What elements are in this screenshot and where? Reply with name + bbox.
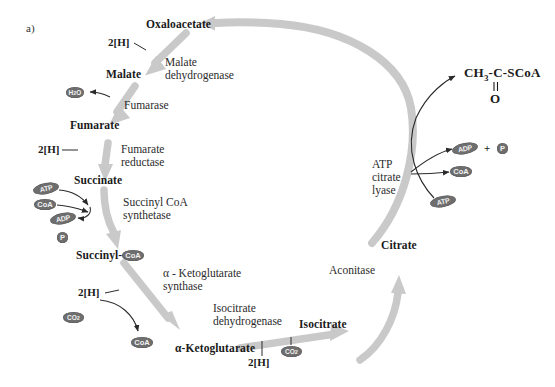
cofactor-2h-succinyl-akg: 2[H] xyxy=(78,286,99,298)
arrow-coa-release-akg xyxy=(100,300,138,331)
enzyme-fumarase: Fumarase xyxy=(124,99,169,112)
enzyme-succinyl-coa-synthetase-line2: synthetase xyxy=(123,209,188,222)
enzyme-malate-dehydrogenase-line1: Malate xyxy=(165,56,234,69)
phosphate-badge-scs: P xyxy=(57,232,68,243)
coa-badge-succinyl: CoA xyxy=(122,250,144,261)
enzyme-atp-citrate-lyase-line2: citrate xyxy=(372,171,401,184)
carbonyl-oxygen: O xyxy=(490,92,500,107)
enzyme-succinyl-coa-synthetase-line1: Succinyl CoA xyxy=(123,196,188,209)
arrow-succinate-to-succinyl-coa xyxy=(104,190,121,249)
enzyme-atp-citrate-lyase-line3: lyase xyxy=(372,184,401,197)
plus-sign-lyase: + xyxy=(484,142,490,154)
metabolite-alpha-ketoglutarate: α-Ketoglutarate xyxy=(175,342,255,355)
metabolite-succinyl-coa: Succinyl- xyxy=(76,249,122,262)
metabolite-fumarate: Fumarate xyxy=(70,119,119,132)
enzyme-alpha-ketoglutarate-synthase-line1: α - Ketoglutarate xyxy=(163,267,241,280)
metabolite-malate: Malate xyxy=(106,68,141,81)
panel-label: a) xyxy=(26,22,35,34)
enzyme-isocitrate-dehydrogenase-line2: dehydrogenase xyxy=(213,315,282,328)
tick-2h-oxaloacetate xyxy=(134,43,146,50)
metabolite-succinate: Succinate xyxy=(74,174,122,187)
enzyme-alpha-ketoglutarate-synthase-line2: synthase xyxy=(163,280,241,293)
coa-badge-lyase: CoA xyxy=(450,166,472,177)
metabolite-isocitrate: Isocitrate xyxy=(299,318,347,331)
enzyme-malate-dehydrogenase-line2: dehydrogenase xyxy=(165,69,234,82)
coa-badge-scs: CoA xyxy=(34,199,56,210)
arrow-atp-in-scs xyxy=(59,190,88,205)
water-badge: H2O xyxy=(66,87,84,98)
enzyme-alpha-ketoglutarate-synthase: α - Ketoglutarate synthase xyxy=(163,267,241,293)
figure-canvas: a) Oxaloacetate Malate Fumarate Succinat… xyxy=(0,0,555,387)
enzyme-isocitrate-dehydrogenase-line1: Isocitrate xyxy=(213,302,282,315)
cofactor-2h-oxaloacetate-malate: 2[H] xyxy=(108,36,129,48)
arrow-isocitrate-to-citrate xyxy=(360,275,406,360)
arrow-water-release xyxy=(90,92,110,97)
cofactor-2h-akg-isocitrate: 2[H] xyxy=(248,356,269,368)
metabolite-succinyl-coa-label: Succinyl- xyxy=(76,249,122,261)
enzyme-aconitase: Aconitase xyxy=(329,264,375,277)
main-cycle-arc xyxy=(200,16,413,243)
enzyme-fumarate-reductase: Fumarate reductase xyxy=(121,143,164,169)
cofactor-2h-fumarate-succinate: 2[H] xyxy=(38,143,59,155)
acetyl-coa-formula: CH3-C-SCoA xyxy=(464,66,541,83)
enzyme-atp-citrate-lyase-line1: ATP xyxy=(372,158,401,171)
cycle-arrows-layer xyxy=(0,0,555,387)
enzyme-isocitrate-dehydrogenase: Isocitrate dehydrogenase xyxy=(213,302,282,328)
enzyme-succinyl-coa-synthetase: Succinyl CoA synthetase xyxy=(123,196,188,222)
enzyme-fumarate-reductase-line1: Fumarate xyxy=(121,143,164,156)
metabolite-citrate: Citrate xyxy=(381,239,417,252)
enzyme-fumarate-reductase-line2: reductase xyxy=(121,156,164,169)
enzyme-atp-citrate-lyase: ATP citrate lyase xyxy=(372,158,401,197)
co2-badge-akg-isocitrate: CO2 xyxy=(281,346,302,357)
metabolite-oxaloacetate: Oxaloacetate xyxy=(146,18,211,31)
arrow-adp-out-scs xyxy=(78,207,90,218)
arrow-coa-in-scs xyxy=(57,205,88,212)
coa-badge-akg-release: CoA xyxy=(131,337,153,348)
phosphate-badge-lyase: P xyxy=(497,143,508,154)
tick-2h-succinyl xyxy=(105,290,119,293)
enzyme-malate-dehydrogenase: Malate dehydrogenase xyxy=(165,56,234,82)
arrow-adp-out-lyase xyxy=(411,149,452,172)
arrow-acetyl-coa-product xyxy=(411,76,455,198)
co2-badge-succinyl-akg: CO2 xyxy=(63,312,84,323)
